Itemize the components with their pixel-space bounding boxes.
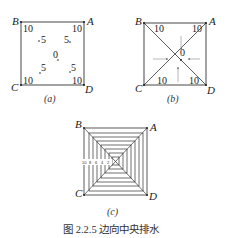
corner-label-c: C: [75, 187, 83, 199]
corner-label-b: B: [135, 15, 142, 27]
corner-label-a: A: [149, 121, 157, 133]
corner-label-d: D: [84, 83, 93, 95]
elevation-a: 10: [192, 23, 202, 34]
elevation-c: 10: [157, 75, 167, 86]
elevation-b: 10: [23, 23, 33, 34]
corner-label-a: A: [86, 15, 94, 27]
point-upper-right: 5: [64, 34, 69, 45]
contour-label-10: 10: [82, 160, 87, 165]
point-lower-left: 5: [41, 62, 46, 73]
panel-b: B A C D 10 10 10 10 0 (b): [135, 15, 216, 105]
corner-label-b: B: [75, 118, 82, 130]
corner-label-d: D: [148, 190, 157, 202]
panel-b-label: (b): [167, 93, 179, 105]
panel-c: 10 8 6 4 2 B A C D (c): [75, 118, 157, 218]
elevation-b: 10: [154, 23, 164, 34]
corner-label-a: A: [208, 15, 216, 27]
panel-c-label: (c): [107, 206, 119, 218]
elevation-d: 10: [72, 75, 82, 86]
corner-label-d: D: [206, 84, 215, 96]
corner-label-b: B: [12, 15, 19, 27]
point-center: 0: [53, 49, 58, 60]
figure-caption: 图 2.2.5 边向中央排水: [63, 223, 160, 235]
elevation-c: 10: [23, 75, 33, 86]
elevation-d: 10: [189, 75, 199, 86]
point-lower-right: 5: [71, 62, 76, 73]
corner-label-c: C: [135, 82, 143, 94]
elevation-a: 10: [72, 23, 82, 34]
panel-a: B A C D 10 10 10 10 5 5 0 5 5 (a): [11, 15, 94, 105]
corner-label-c: C: [11, 81, 19, 93]
drainage-figure: B A C D 10 10 10 10 5 5 0 5 5 (a) B A C …: [0, 0, 228, 238]
point-upper-left: 5: [41, 34, 46, 45]
panel-a-label: (a): [44, 93, 56, 105]
